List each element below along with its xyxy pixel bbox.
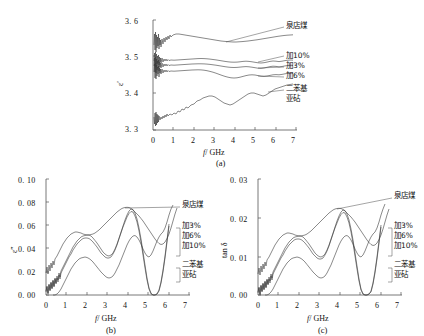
panel-c-label-dpso-line2: 亚砧 [394,271,408,280]
panel-b-leader-group [176,228,180,256]
panel-b-label-dpso-line2: 亚砧 [182,271,196,280]
panel-a-label-coal: 泉店煤 [286,22,307,31]
panel-a-label-dpso-line2: 亚砧 [286,95,300,104]
panel-c-leader-dpso [388,268,392,282]
panel-a-epsilon-real: ε′ 3. 6 3. 5 3. 4 3. 3 0 1 2 3 4 5 6 7 f… [108,4,318,169]
panel-b-plot-area [0,168,212,336]
panel-c-label-add10: 加10% [394,242,418,251]
panel-a-curve-dpso [154,84,293,126]
panel-c-tan-delta: tan δ 0. 03 0. 02 0. 01 0. 00 0 1 2 3 4 … [212,168,424,336]
panel-a-leader-dpso [268,90,284,92]
panel-a-label-add3: 加3% [286,62,305,71]
panel-b-epsilon-imag: ε″ 0. 10 0. 08 0. 06 0. 04 0. 02 0. 00 0… [0,168,212,336]
panel-a-leader-coal [226,27,284,42]
panel-a-curve-add10 [154,52,293,67]
panel-c-label-coal: 泉店煤 [394,192,415,201]
panel-c-curve-add10 [265,204,385,295]
panel-c-leader-group [388,228,392,256]
panel-a-label-add10: 加10% [286,52,310,61]
panel-b-label-add10: 加10% [182,242,206,251]
panel-b-label-add3: 加3% [182,222,201,231]
panel-b-leader-dpso [176,268,180,282]
panel-c-label-add6: 加6% [394,232,413,241]
panel-a-curve-add3 [154,57,293,73]
panel-c-plot-area [212,168,424,336]
panel-c-label-dpso-line1: 二苯基 [394,261,415,270]
panel-b-curve-add10 [53,205,173,295]
panel-b-label-coal: 泉店煤 [182,201,203,210]
panel-b-label-add6: 加6% [182,232,201,241]
panel-a-label-add6: 加6% [286,72,305,81]
panel-b-label-dpso-line1: 二苯基 [182,261,203,270]
panel-a-label-dpso-line1: 二苯基 [286,85,307,94]
panel-a-leader-add3 [258,67,284,68]
panel-c-label-add3: 加3% [394,222,413,231]
panel-a-curve-coal [154,32,293,52]
